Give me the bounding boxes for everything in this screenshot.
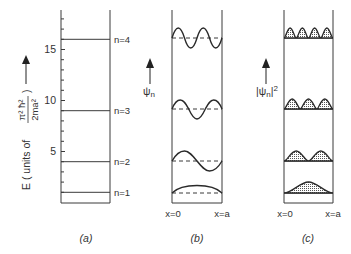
axis-arrow-icon: [22, 55, 30, 64]
axis-label-numerator: π² ħ²: [16, 100, 27, 121]
level-label-n2: n=2: [114, 156, 130, 167]
panel-c-probability-densities: |ψn|2 x=0 x=a (c): [256, 10, 342, 244]
particle-in-box-figure: 5 10 15 n=1 n=2 n=3 n=4 E ( units of π² …: [0, 0, 351, 254]
panel-b-wavefunctions: ψn x=0 x=a (b): [143, 10, 231, 244]
psi-arrow-icon: [146, 58, 154, 68]
panel-c-x0-label: x=0: [277, 208, 293, 219]
prob-axis-label: |ψn|2: [256, 84, 278, 99]
level-label-n1: n=1: [114, 187, 130, 198]
panel-b-xa-label: x=a: [214, 208, 230, 219]
level-label-n3: n=3: [114, 105, 130, 116]
tick-label-5: 5: [50, 145, 56, 157]
panel-c-caption: (c): [302, 232, 314, 244]
psi-axis-label: ψn: [143, 85, 155, 99]
prob3-curve: [284, 99, 333, 109]
prob1-curve: [284, 182, 333, 193]
panel-b-x0-label: x=0: [165, 208, 181, 219]
tick-label-10: 10: [44, 94, 56, 106]
prob-arrow-icon: [262, 58, 270, 68]
psi1-curve: [172, 186, 222, 194]
panel-a-caption: (a): [80, 232, 93, 244]
level-label-n4: n=4: [114, 34, 130, 45]
prob4-curve: [284, 28, 333, 38]
panel-a-energy-levels: 5 10 15 n=1 n=2 n=3 n=4 E ( units of π² …: [16, 10, 130, 244]
axis-label-denominator: 2ma²: [29, 99, 40, 121]
prob2-curve: [284, 151, 333, 161]
axis-label-suffix: ): [20, 90, 32, 94]
energy-axis-ticks: [61, 19, 65, 192]
energy-axis-label: E ( units of π² ħ² 2ma² ): [16, 55, 40, 190]
tick-label-15: 15: [44, 43, 56, 55]
panel-c-xa-label: x=a: [325, 208, 341, 219]
panel-b-caption: (b): [191, 232, 204, 244]
axis-label-prefix: E ( units of: [20, 140, 32, 190]
